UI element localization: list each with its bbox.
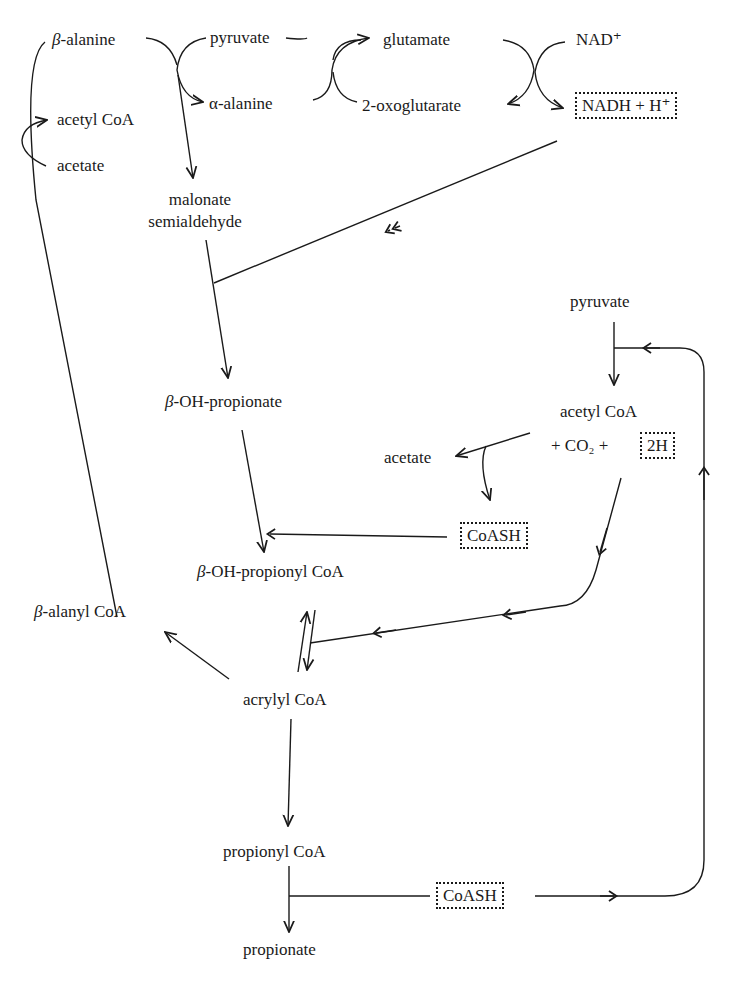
node-propionate: propionate	[243, 940, 316, 960]
node-beta-alanine: β-alanine	[52, 30, 115, 50]
node-acetate-right: acetate	[384, 448, 431, 468]
node-pyruvate-top: pyruvate	[210, 28, 269, 48]
node-coash-bottom-boxed: CoASH	[436, 882, 504, 909]
node-semialdehyde: semialdehyde	[148, 212, 241, 232]
node-co2: + CO₂ +	[551, 436, 608, 456]
node-glutamate: glutamate	[383, 30, 450, 50]
node-nadh-boxed: NADH + H⁺	[575, 92, 677, 119]
node-acetyl-coa-right: acetyl CoA	[560, 402, 637, 422]
pathway-arrows	[0, 0, 739, 992]
pathway-diagram: β-alanine pyruvate glutamate NAD⁺ α-alan…	[0, 0, 739, 992]
node-2h-boxed: 2H	[640, 432, 675, 459]
node-malonate: malonate	[169, 190, 231, 210]
node-acetate-left: acetate	[57, 156, 104, 176]
node-acetyl-coa-left: acetyl CoA	[57, 110, 134, 130]
node-beta-alanyl-coa: β-alanyl CoA	[34, 602, 126, 622]
node-beta-oh-propionyl-coa: β-OH-propionyl CoA	[197, 562, 344, 582]
node-pyruvate-right: pyruvate	[570, 292, 629, 312]
node-2-oxoglutarate: 2-oxoglutarate	[362, 96, 461, 116]
node-beta-oh-propionate: β-OH-propionate	[165, 392, 282, 412]
node-propionyl-coa: propionyl CoA	[223, 842, 325, 862]
node-acrylyl-coa: acrylyl CoA	[243, 690, 327, 710]
node-alpha-alanine: α-alanine	[209, 94, 273, 114]
node-coash-mid-boxed: CoASH	[460, 522, 528, 549]
node-nad-plus: NAD⁺	[576, 30, 622, 50]
acetate-acetylcoa-curve	[22, 120, 47, 166]
